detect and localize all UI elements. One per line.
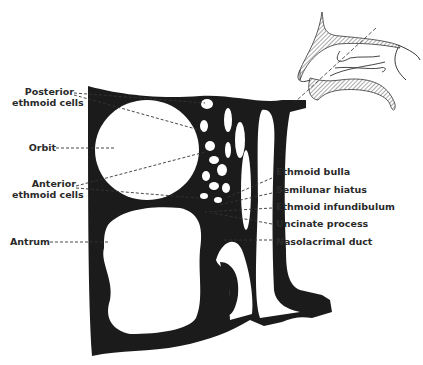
label-line: Orbit	[12, 142, 56, 153]
label-anterior-ethmoid-cells: Anterior ethmoid cells	[12, 178, 76, 200]
inset-nose-diagram	[295, 12, 420, 110]
label-ethmoid-infundibulum: Ethmoid infundibulum	[276, 201, 395, 212]
label-line: Anterior	[12, 178, 76, 189]
label-posterior-ethmoid-cells: Posterior ethmoid cells	[12, 86, 74, 108]
label-line: Posterior	[12, 86, 74, 97]
label-line: Antrum	[4, 236, 50, 247]
label-orbit: Orbit	[12, 142, 56, 153]
label-nasolacrimal-duct: Nasolacrimal duct	[276, 236, 372, 247]
label-antrum: Antrum	[4, 236, 50, 247]
label-line: ethmoid cells	[12, 97, 74, 108]
label-uncinate-process: Uncinate process	[276, 218, 368, 229]
antrum-cavity	[103, 207, 201, 334]
label-line: ethmoid cells	[12, 189, 76, 200]
label-semilunar-hiatus: Semilunar hiatus	[276, 184, 367, 195]
label-ethmoid-bulla: Ethmoid bulla	[276, 166, 350, 177]
